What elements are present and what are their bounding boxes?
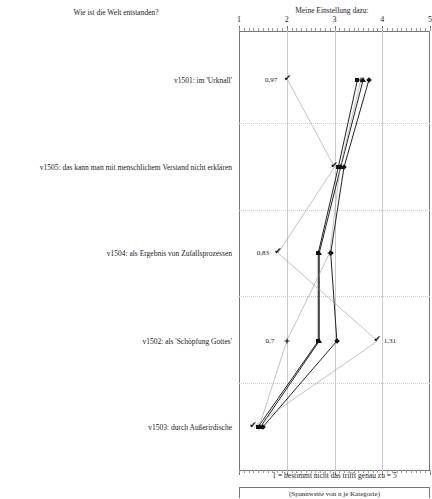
axis-minor-tick [239,28,240,31]
axis-minor-tick [311,28,312,31]
axis-minor-tick [330,28,331,31]
value-annotation: 0,97 [265,76,277,84]
axis-tick-label: 3 [333,15,337,24]
axis-minor-tick [430,28,431,31]
axis-minor-tick [401,28,402,31]
axis-minor-tick [253,28,254,31]
axis-minor-tick [244,28,245,31]
marker-plus [338,165,343,170]
marker-plus [284,339,289,344]
axis-minor-tick [344,28,345,31]
marker-check: ✔ [274,247,282,256]
axis-tick-label: 4 [380,15,384,24]
axis-minor-tick [325,28,326,31]
axis-minor-tick [406,28,407,31]
axis-tick-label: 5 [428,15,432,24]
axis-minor-tick [249,28,250,31]
scale-legend: 1 = bestimmt nicht das trifft genau zu =… [239,471,430,480]
row-label-v1501: v1501: im 'Urknall' [174,76,232,85]
marker-plus [327,251,332,256]
marker-check: ✔ [284,74,292,83]
value-annotation: 1,31 [384,337,396,345]
axis-minor-tick [425,28,426,31]
row-label-v1505: v1505: das kann man mit menschlichem Ver… [40,163,232,172]
horizontal-gridline [239,210,430,211]
axis-minor-tick [306,28,307,31]
axis-tick-label: 1 [237,15,241,24]
axis-minor-tick [320,28,321,31]
axis-minor-tick [277,28,278,31]
axis-minor-tick [263,28,264,31]
axis-minor-tick [282,28,283,31]
axis-tick-label: 2 [285,15,289,24]
range-caption: (Spannweite von n je Kategorie) [239,487,430,498]
axis-minor-tick [430,470,431,473]
axis-minor-tick [258,28,259,31]
axis-minor-tick [349,28,350,31]
axis-minor-tick [368,28,369,31]
axis-minor-tick [397,28,398,31]
horizontal-gridline [239,123,430,124]
marker-triangle [316,250,322,255]
marker-triangle [316,338,322,343]
axis-minor-tick [301,28,302,31]
vertical-gridline [335,31,336,471]
axis-minor-tick [358,28,359,31]
row-label-v1504: v1504: als Ergebnis von Zufallsprozessen [107,249,232,258]
horizontal-gridline [239,296,430,297]
chart-left-title: Wie ist die Welt entstanden? [0,8,232,17]
axis-minor-tick [416,28,417,31]
axis-minor-tick [363,28,364,31]
chart-right-title: Meine Einstellung dazu: [232,6,432,15]
axis-minor-tick [387,28,388,31]
vertical-gridline [287,31,288,471]
axis-minor-tick [315,28,316,31]
axis-minor-tick [411,28,412,31]
row-label-v1502: v1502: als 'Schöpfung Gottes' [142,337,232,346]
axis-minor-tick [268,28,269,31]
axis-minor-tick [373,28,374,31]
axis-minor-tick [377,28,378,31]
axis-minor-tick [354,28,355,31]
row-label-v1503: v1503: durch Außerirdische [148,423,232,432]
axis-minor-tick [272,28,273,31]
horizontal-gridline [239,383,430,384]
value-annotation: 0,7 [265,337,274,345]
axis-minor-tick [292,28,293,31]
marker-check: ✔ [373,335,381,344]
value-annotation: 0,83 [257,249,269,257]
vertical-gridline [382,31,383,471]
marker-plus [358,78,363,83]
marker-plus [257,425,262,430]
axis-minor-tick [339,28,340,31]
axis-minor-tick [392,28,393,31]
axis-minor-tick [296,28,297,31]
axis-minor-tick [420,28,421,31]
